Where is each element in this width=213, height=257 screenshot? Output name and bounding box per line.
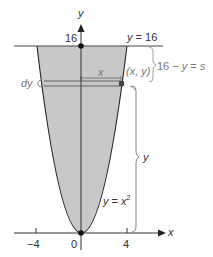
point-label: (x, y) [126, 66, 150, 77]
x-axis-arrow [158, 230, 166, 237]
y-axis-arrow [78, 24, 85, 32]
y-tick-16-label: 16 [65, 33, 77, 44]
curve-label: y = x2 [103, 194, 130, 207]
point-xy [119, 81, 124, 86]
y-axis-label: y [78, 8, 84, 19]
x-tick-0-label: 0 [71, 239, 77, 250]
dy-label: dy [21, 78, 33, 89]
x-tick-4-label: 4 [123, 239, 129, 250]
origin-dot [78, 230, 84, 236]
y16-dot [78, 43, 84, 49]
strip-x-label: x [98, 67, 104, 78]
parabola-diagram [0, 0, 213, 257]
distance-label: 16 − y = s [157, 61, 205, 72]
top-line-label: y = 16 [127, 32, 157, 43]
height-y-label: y [143, 152, 149, 163]
x-tick-neg4-label: −4 [27, 239, 40, 250]
x-axis-label: x [168, 227, 174, 238]
brace-y [132, 86, 139, 232]
